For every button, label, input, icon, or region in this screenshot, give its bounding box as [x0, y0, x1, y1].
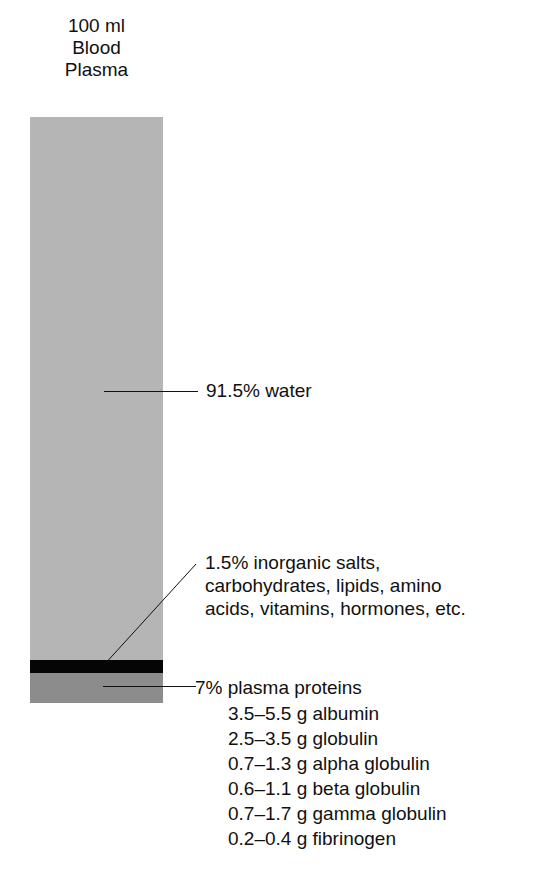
proteins-leader-line [103, 686, 196, 687]
salts-label-line-2: carbohydrates, lipids, amino [205, 575, 442, 597]
protein-item: 2.5–3.5 g globulin [228, 726, 378, 751]
salts-label-line-1: 1.5% inorganic salts, [205, 552, 380, 574]
protein-item: 0.2–0.4 g fibrinogen [228, 826, 396, 851]
protein-item: 0.7–1.7 g gamma globulin [228, 801, 447, 826]
salts-label-line-3: acids, vitamins, hormones, etc. [205, 598, 466, 620]
protein-item: 0.7–1.3 g alpha globulin [228, 751, 430, 776]
proteins-label: 7% plasma proteins [195, 677, 362, 699]
protein-item: 3.5–5.5 g albumin [228, 701, 379, 726]
protein-item: 0.6–1.1 g beta globulin [228, 776, 420, 801]
